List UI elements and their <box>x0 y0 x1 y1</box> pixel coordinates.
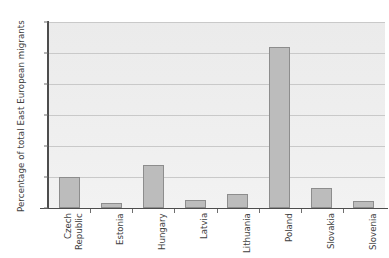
x-category-label-line: Estonia <box>115 213 125 245</box>
x-tick-mark-7 <box>343 209 344 213</box>
x-axis-labels: CzechRepublicEstoniaHungaryLatviaLithuan… <box>0 0 389 258</box>
x-category-label-line: Hungary <box>157 213 167 250</box>
x-tick-mark-4 <box>217 209 218 213</box>
x-category-label-line: Poland <box>284 213 294 242</box>
x-category-label-line: Slovakia <box>326 213 336 249</box>
x-category-label-line: Lithuania <box>242 213 252 253</box>
x-category-label-line: Latvia <box>199 213 209 239</box>
x-tick-mark-1 <box>90 209 91 213</box>
x-category-label-line: Czech <box>63 213 73 239</box>
x-tick-mark-2 <box>132 209 133 213</box>
bar-chart-figure: Percentage of total East European migran… <box>0 0 389 258</box>
x-category-label-line: Slovenia <box>368 213 378 250</box>
x-category-label-line: Republic <box>74 213 84 250</box>
x-tick-mark-6 <box>301 209 302 213</box>
x-tick-mark-3 <box>174 209 175 213</box>
x-tick-mark-5 <box>259 209 260 213</box>
